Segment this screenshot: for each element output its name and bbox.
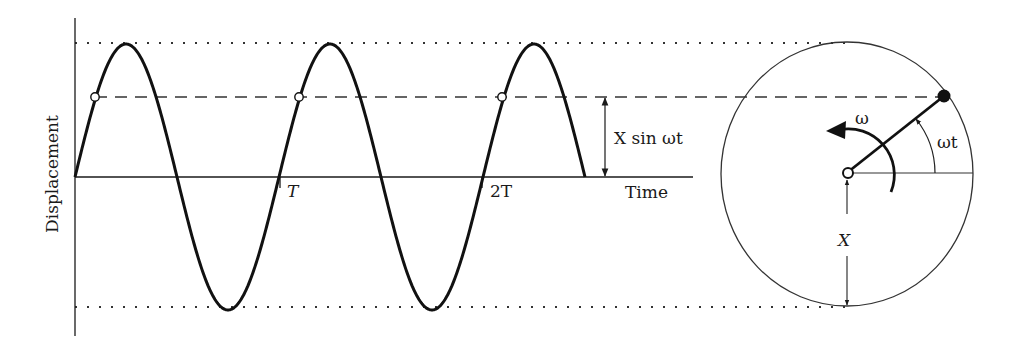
phase-marker-2 [295,93,303,101]
amplitude-label: X sin ωt [614,128,683,148]
omega-label: ω [855,108,869,128]
phase-marker-3 [498,93,506,101]
waveform-axes [75,18,693,336]
x-axis-label: Time [625,182,668,202]
radius-label: X [836,230,851,250]
shm-diagram: Displacement Time T 2T X sin ωt ω ωt X [0,0,1018,344]
tick-label-2T-text: 2T [490,181,513,201]
phasor-diagram: ω ωt X [721,42,973,306]
tick-label-2T: 2T [490,181,513,201]
tick-label-T: T [287,181,300,201]
phasor-pivot [843,168,853,178]
y-axis-label: Displacement [42,115,62,233]
phasor-tip-dot [938,90,951,103]
angle-arc [916,119,935,173]
rotation-arrowhead-icon [826,121,846,139]
phase-marker-1 [91,93,99,101]
omega-t-label: ωt [937,132,958,152]
rotation-arc [838,129,894,192]
